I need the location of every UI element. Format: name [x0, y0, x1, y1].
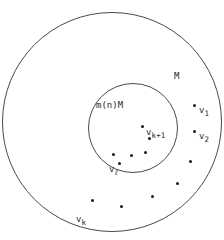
- label-outer-region-M: M: [174, 72, 179, 81]
- point-vk-marker: [91, 199, 94, 202]
- point-vk1-marker: [141, 125, 144, 128]
- label-vl-subscript: ℓ: [114, 168, 117, 177]
- label-v2-subscript: 2: [204, 135, 209, 144]
- point-v1-marker: [193, 104, 196, 107]
- label-vk-subscript: k: [81, 218, 86, 227]
- label-v1-subscript: 1: [204, 109, 209, 118]
- point-inner: [144, 151, 147, 154]
- point-inner: [130, 154, 133, 157]
- point-annulus: [176, 182, 179, 185]
- label-v1: v1: [199, 100, 209, 116]
- point-v2-marker: [193, 130, 196, 133]
- figure-canvas: M m(n)M v1 v2 vk+1 vℓ vk: [0, 0, 224, 240]
- point-annulus: [151, 195, 154, 198]
- label-vk1-subscript: k+1: [151, 131, 165, 140]
- point-vl-marker: [112, 153, 115, 156]
- point-annulus: [189, 160, 192, 163]
- label-inner-region-mnM: m(n)M: [96, 101, 123, 110]
- point-annulus: [120, 205, 123, 208]
- label-vk1: vk+1: [146, 122, 166, 138]
- label-vk: vk: [76, 209, 86, 225]
- point-inner: [118, 162, 121, 165]
- label-vl: vℓ: [109, 159, 118, 175]
- label-v2: v2: [199, 126, 209, 142]
